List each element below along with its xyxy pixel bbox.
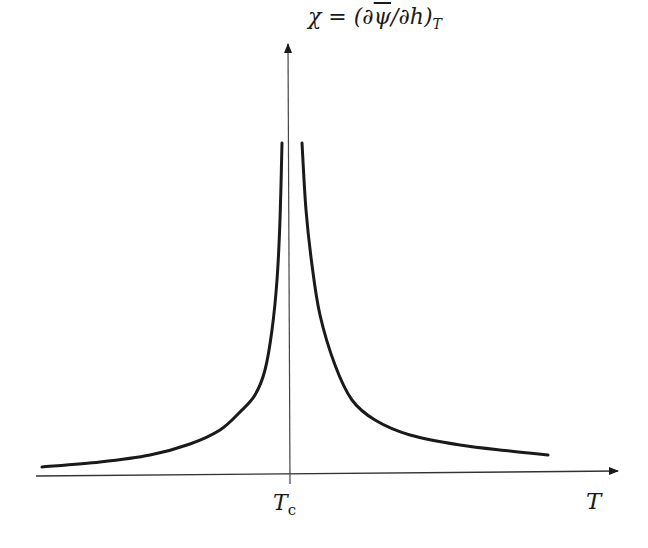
y-label-psi-bar: ψ: [374, 4, 391, 29]
chart-canvas: [0, 0, 648, 548]
x-axis: [36, 471, 618, 476]
tc-subscript: c: [288, 501, 296, 519]
y-label-lhs: χ = (∂: [308, 4, 374, 29]
critical-temperature-tick-label: Tc: [273, 490, 296, 519]
y-label-subscript: T: [433, 16, 442, 32]
y-label-mid: /∂h): [391, 4, 433, 29]
x-axis-label: T: [586, 488, 601, 514]
tc-main: T: [273, 490, 288, 515]
curve-left-branch: [42, 143, 282, 467]
curve-right-branch: [302, 143, 548, 455]
y-axis-label: χ = (∂ψ/∂h)T: [308, 4, 442, 32]
y-axis: [288, 44, 290, 484]
